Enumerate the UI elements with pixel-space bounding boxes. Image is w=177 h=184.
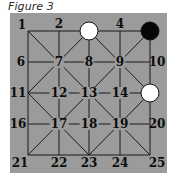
- point-label-23: 23: [80, 157, 99, 169]
- point-label-21: 21: [11, 157, 30, 169]
- point-label-25: 25: [148, 157, 167, 169]
- point-label-20: 20: [148, 118, 167, 130]
- point-label-12: 12: [50, 87, 69, 99]
- point-label-1: 1: [17, 19, 27, 31]
- point-label-22: 22: [50, 157, 69, 169]
- point-label-16: 16: [9, 118, 28, 130]
- white-piece-icon: [141, 84, 160, 103]
- point-label-4: 4: [115, 18, 125, 30]
- point-label-2: 2: [54, 18, 64, 30]
- point-label-24: 24: [111, 157, 130, 169]
- point-label-13: 13: [80, 87, 99, 99]
- alquerque-board-diagram: 1246789101112131416171819202122232425: [0, 0, 177, 184]
- point-label-17: 17: [50, 118, 69, 130]
- point-label-8: 8: [84, 56, 94, 68]
- white-piece-icon: [80, 22, 99, 41]
- point-label-19: 19: [111, 118, 130, 130]
- point-label-6: 6: [16, 56, 26, 68]
- point-label-11: 11: [9, 87, 28, 99]
- point-label-14: 14: [111, 87, 130, 99]
- point-label-10: 10: [148, 56, 167, 68]
- point-label-9: 9: [115, 56, 125, 68]
- point-label-7: 7: [54, 56, 64, 68]
- point-label-18: 18: [80, 118, 99, 130]
- black-piece-icon: [141, 22, 160, 41]
